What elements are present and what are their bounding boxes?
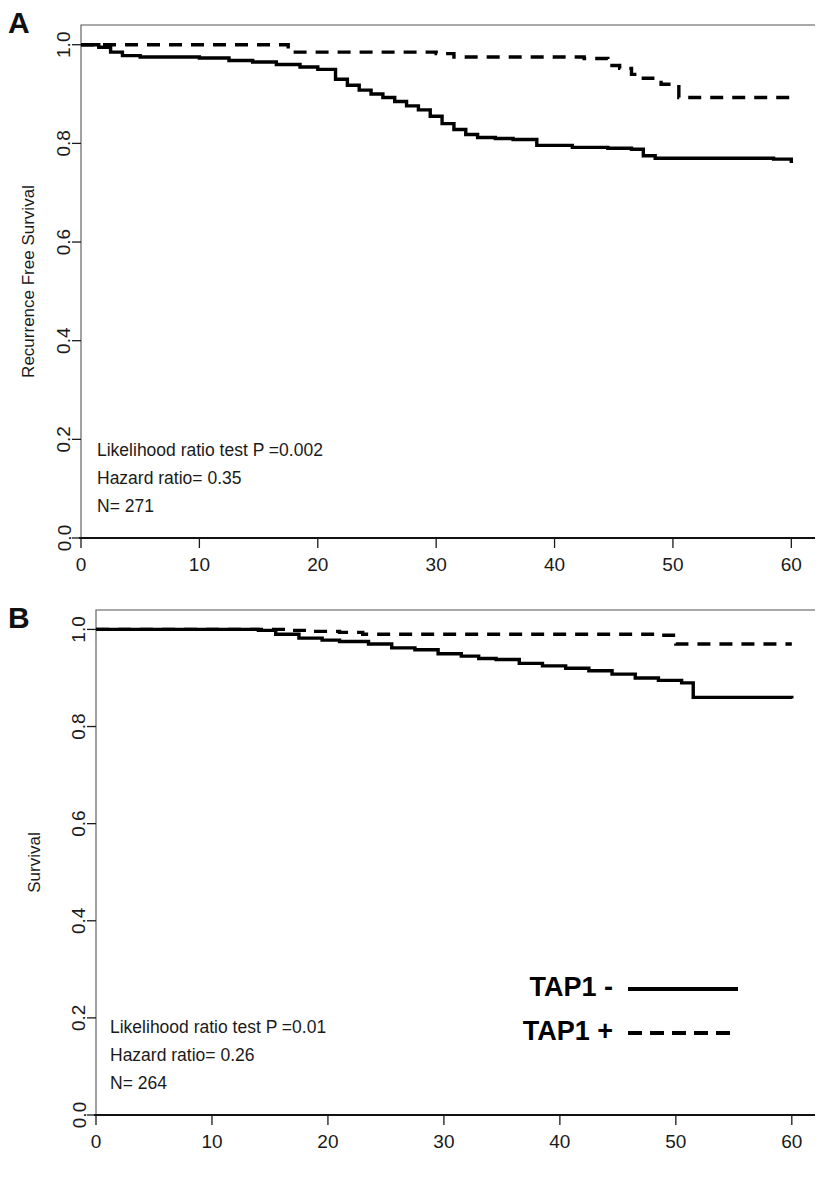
kaplan-meier-figure: A 0.00.20.40.60.81.00102030405060Recurre… — [0, 0, 819, 1192]
panel-a-plot: 0.00.20.40.60.81.00102030405060Recurrenc… — [0, 0, 819, 590]
y-tick-label: 0.2 — [69, 1005, 90, 1031]
x-tick-label: 60 — [781, 554, 802, 575]
x-tick-label: 30 — [433, 1131, 454, 1152]
curve-tap1 — [96, 629, 792, 644]
plot-frame — [81, 25, 815, 538]
y-tick-label: 0.6 — [69, 810, 90, 836]
x-tick-label: 10 — [201, 1131, 222, 1152]
x-tick-label: 20 — [317, 1131, 338, 1152]
y-tick-label: 0.6 — [54, 229, 75, 255]
annotation-line-2: Hazard ratio= 0.35 — [97, 468, 241, 488]
x-tick-label: 60 — [781, 1131, 802, 1152]
y-tick-label: 1.0 — [69, 616, 90, 642]
legend-label-2: TAP1 + — [523, 1016, 613, 1046]
y-axis-title: Survival — [25, 832, 44, 892]
curve-tap1 — [81, 45, 791, 98]
y-tick-label: 0.2 — [54, 426, 75, 452]
panel-b: B 0.00.20.40.60.81.00102030405060Surviva… — [0, 585, 819, 1192]
x-tick-label: 50 — [662, 554, 683, 575]
y-tick-label: 1.0 — [54, 32, 75, 58]
x-tick-label: 40 — [549, 1131, 570, 1152]
annotation-line-3: N= 264 — [110, 1073, 167, 1093]
y-tick-label: 0.0 — [69, 1102, 90, 1128]
annotation-line-1: Likelihood ratio test P =0.01 — [110, 1017, 326, 1037]
y-tick-label: 0.4 — [54, 327, 75, 354]
y-tick-label: 0.8 — [54, 130, 75, 156]
y-axis-title: Recurrence Free Survival — [19, 185, 38, 378]
x-tick-label: 40 — [544, 554, 565, 575]
legend-label-1: TAP1 - — [529, 972, 613, 1002]
x-tick-label: 20 — [307, 554, 328, 575]
annotation-line-2: Hazard ratio= 0.26 — [110, 1045, 254, 1065]
x-tick-label: 10 — [189, 554, 210, 575]
annotation-line-1: Likelihood ratio test P =0.002 — [97, 440, 323, 460]
x-tick-label: 0 — [76, 554, 87, 575]
plot-frame — [96, 610, 815, 1115]
x-tick-label: 50 — [665, 1131, 686, 1152]
annotation-line-3: N= 271 — [97, 496, 154, 516]
x-tick-label: 30 — [426, 554, 447, 575]
panel-b-plot: 0.00.20.40.60.81.00102030405060SurvivalL… — [0, 585, 819, 1192]
x-tick-label: 0 — [91, 1131, 102, 1152]
y-tick-label: 0.4 — [69, 907, 90, 934]
panel-a: A 0.00.20.40.60.81.00102030405060Recurre… — [0, 0, 819, 590]
y-tick-label: 0.0 — [54, 525, 75, 551]
y-tick-label: 0.8 — [69, 713, 90, 739]
curve-tap1 — [81, 45, 791, 163]
curve-tap1 — [96, 629, 792, 698]
